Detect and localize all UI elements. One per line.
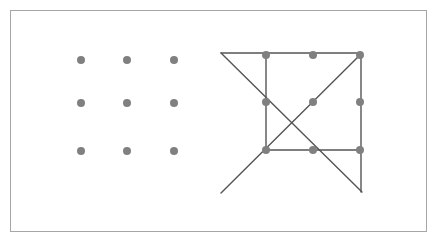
puzzle-dot <box>309 146 317 154</box>
puzzle-dot <box>170 99 178 107</box>
puzzle-dot <box>356 146 364 154</box>
puzzle-dot <box>77 56 85 64</box>
puzzle-dot <box>356 51 364 59</box>
puzzle-dot <box>262 98 270 106</box>
figure-canvas <box>0 0 439 246</box>
puzzle-dot <box>77 147 85 155</box>
lines-layer <box>221 53 362 193</box>
puzzle-line <box>221 54 361 193</box>
puzzle-dot <box>123 56 131 64</box>
puzzle-dot <box>356 98 364 106</box>
puzzle-dot <box>170 147 178 155</box>
puzzle-dot <box>77 99 85 107</box>
puzzle-dot <box>262 51 270 59</box>
puzzle-dot <box>309 98 317 106</box>
puzzle-dot <box>123 99 131 107</box>
puzzle-dot <box>309 51 317 59</box>
nine-dots-diagram <box>0 0 439 246</box>
puzzle-dot <box>262 146 270 154</box>
puzzle-dot <box>123 147 131 155</box>
dots-layer <box>77 51 364 155</box>
puzzle-dot <box>170 56 178 64</box>
